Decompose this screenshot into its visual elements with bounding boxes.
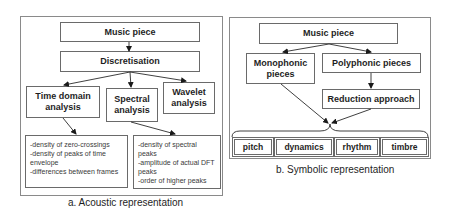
connector-arrows <box>0 0 450 213</box>
